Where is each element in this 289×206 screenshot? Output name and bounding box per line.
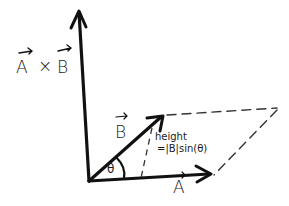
right-dashed-edge	[214, 110, 277, 175]
top-dashed-edge	[167, 108, 277, 115]
vector-b-label: B	[115, 113, 127, 142]
cross-product-label: A × B	[16, 45, 71, 77]
height-dashed-line	[141, 128, 152, 178]
height-label: height	[155, 131, 187, 142]
angle-arc	[116, 157, 124, 178]
b-label-text: B	[115, 122, 126, 142]
cross-label-op: ×	[38, 56, 52, 76]
cross-product-diagram: A × B B A θ height =|B|sin(θ)	[0, 0, 289, 206]
cross-label-a: A	[16, 57, 28, 77]
a-label-text: A	[173, 177, 185, 197]
height-formula: =|B|sin(θ)	[157, 143, 207, 155]
cross-label-b: B	[57, 57, 68, 77]
theta-label: θ	[107, 162, 114, 176]
height-annotation: height =|B|sin(θ)	[155, 131, 207, 155]
cross-product-vector	[71, 11, 89, 181]
vector-a-label: A	[173, 172, 185, 197]
